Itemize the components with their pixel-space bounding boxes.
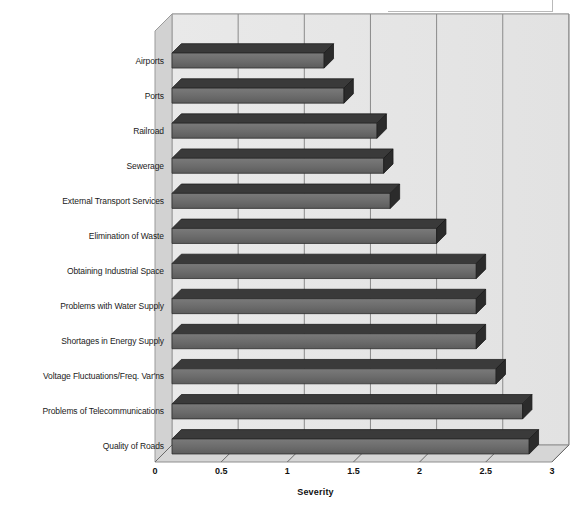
- x-tick-label-6: 2.5: [479, 466, 492, 476]
- bar-top-face: [172, 395, 532, 404]
- bar-7: [172, 254, 486, 278]
- x-tick-label-1: 0: [152, 466, 157, 476]
- x-axis-title: Severity: [0, 487, 579, 497]
- bar-front-face: [172, 228, 437, 243]
- bar-front-face: [172, 158, 384, 173]
- bar-top-face: [172, 289, 486, 298]
- category-label-9: Shortages in Energy Supply: [0, 336, 164, 346]
- bar-front-face: [172, 193, 390, 208]
- bar-front-face: [172, 88, 344, 103]
- bar-6: [172, 219, 446, 243]
- x-tick-label-3: 1: [285, 466, 290, 476]
- x-tick-label-4: 1.5: [347, 466, 360, 476]
- bar-front-face: [172, 53, 324, 68]
- bar-11: [172, 395, 532, 419]
- category-axis-labels: AirportsPortsRailroadSewerageExternal Tr…: [0, 28, 168, 462]
- bar-front-face: [172, 404, 523, 419]
- category-label-12: Quality of Roads: [0, 441, 164, 451]
- category-label-10: Voltage Fluctuations/Freq. Var'ns: [0, 371, 164, 381]
- bar-8: [172, 289, 486, 313]
- bar-front-face: [172, 439, 529, 454]
- category-label-5: External Transport Services: [0, 196, 164, 206]
- bar-front-face: [172, 123, 377, 138]
- category-label-8: Problems with Water Supply: [0, 301, 164, 311]
- category-label-3: Railroad: [0, 126, 164, 136]
- bar-top-face: [172, 149, 393, 158]
- chart-root: AirportsPortsRailroadSewerageExternal Tr…: [0, 0, 579, 530]
- bar-front-face: [172, 299, 476, 314]
- bar-9: [172, 324, 486, 348]
- bar-top-face: [172, 219, 446, 228]
- bar-front-face: [172, 264, 476, 279]
- bar-1: [172, 44, 333, 68]
- bar-top-face: [172, 79, 353, 88]
- bar-front-face: [172, 369, 496, 384]
- bar-12: [172, 430, 539, 454]
- bar-top-face: [172, 254, 486, 263]
- bar-top-face: [172, 184, 400, 193]
- x-tick-label-2: 0.5: [215, 466, 228, 476]
- x-tick-label-7: 3: [549, 466, 554, 476]
- bar-top-face: [172, 324, 486, 333]
- category-label-7: Obtaining Industrial Space: [0, 266, 164, 276]
- category-label-2: Ports: [0, 91, 164, 101]
- bar-4: [172, 149, 393, 173]
- x-axis-tick-labels: 00.511.522.53: [0, 466, 579, 482]
- x-axis-title-text: Severity: [297, 487, 334, 497]
- bar-front-face: [172, 334, 476, 349]
- bar-5: [172, 184, 400, 208]
- x-tick-label-5: 2: [417, 466, 422, 476]
- bar-10: [172, 359, 505, 383]
- category-label-1: Airports: [0, 56, 164, 66]
- bar-top-face: [172, 359, 505, 368]
- bar-3: [172, 114, 386, 138]
- category-label-6: Elimination of Waste: [0, 231, 164, 241]
- category-label-4: Sewerage: [0, 161, 164, 171]
- category-label-11: Problems of Telecommunications: [0, 406, 164, 416]
- bar-top-face: [172, 44, 333, 53]
- bar-2: [172, 79, 353, 103]
- bar-top-face: [172, 114, 386, 123]
- bar-top-face: [172, 430, 539, 439]
